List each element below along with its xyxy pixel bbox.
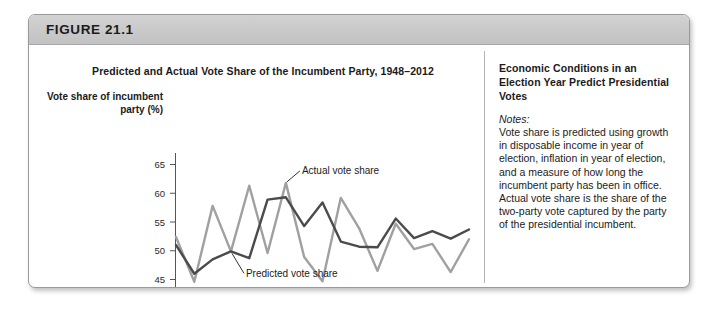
notes-body: Vote share is predicted using growth in … [499, 126, 675, 232]
y-tick-label: 65 [154, 159, 165, 170]
y-tick-label: 55 [154, 217, 165, 228]
panel-divider [484, 51, 485, 283]
chart-panel: Predicted and Actual Vote Share of the I… [29, 45, 481, 288]
notes-label: Notes: [499, 113, 675, 125]
actual-annotation-label: Actual vote share [302, 165, 380, 176]
figure-label: FIGURE 21.1 [46, 22, 134, 37]
y-tick-label: 50 [154, 245, 165, 256]
actual-annotation-leader [287, 171, 300, 182]
series-line [176, 197, 469, 273]
predicted-annotation-label: Predicted vote share [246, 268, 338, 279]
series-line [176, 183, 469, 282]
caption-heading: Economic Conditions in an Election Year … [499, 61, 675, 103]
figure-body: Predicted and Actual Vote Share of the I… [29, 45, 689, 288]
caption-panel: Economic Conditions in an Election Year … [499, 61, 675, 232]
y-tick-label: 60 [154, 188, 165, 199]
figure-header-bar: FIGURE 21.1 [29, 15, 689, 45]
y-ticks-group: 4550556065 [154, 159, 176, 285]
line-chart-svg: 4550556065 19481952195619601964196819721… [29, 45, 481, 288]
figure-container: FIGURE 21.1 Predicted and Actual Vote Sh… [28, 14, 690, 288]
y-tick-label: 45 [154, 274, 165, 285]
plot-area: 4550556065 19481952195619601964196819721… [29, 45, 481, 288]
data-series-group [176, 183, 469, 282]
